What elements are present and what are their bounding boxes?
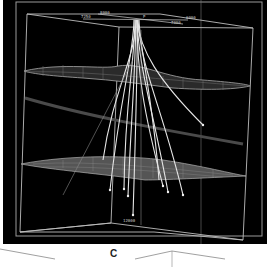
outer-frame [16,2,262,236]
lower-panel [0,245,270,267]
bounding-box [20,14,253,240]
middle-horizon-band [25,98,243,144]
well-trajectory-scene: 7250 8000 P 6000 7000 [3,0,267,244]
depth-label: 12000 [123,218,136,223]
lower-horizon-mesh [21,157,246,180]
top-label-3: P [143,14,146,19]
lower-panel-outline [0,245,270,267]
3d-viewport[interactable]: 7250 8000 P 6000 7000 [3,0,267,244]
top-label-2: 8000 [100,10,110,15]
top-label-1: 7250 [81,14,91,19]
panel-label: C [110,248,117,259]
top-label-4: 6000 [186,15,196,20]
top-label-5: 7000 [171,20,181,25]
